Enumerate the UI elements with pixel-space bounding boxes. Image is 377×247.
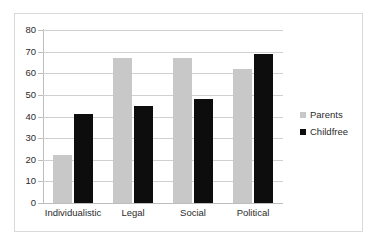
chart-legend: ParentsChildfree — [300, 106, 358, 140]
y-tick-label-60: 60 — [6, 68, 36, 78]
bar-parents-political — [233, 69, 252, 203]
legend-swatch-icon-parents — [300, 112, 306, 118]
bar-parents-individualistic — [53, 155, 72, 203]
category-label-social: Social — [163, 207, 223, 219]
plot-area — [43, 30, 283, 203]
gridline-0 — [43, 203, 283, 204]
bar-group — [223, 30, 283, 203]
legend-label: Parents — [310, 109, 343, 120]
y-tick-label-0: 0 — [6, 198, 36, 208]
bar-childfree-social — [194, 99, 213, 203]
category-label-individualistic: Individualistic — [43, 207, 103, 219]
legend-swatch-icon-childfree — [300, 129, 306, 135]
y-axis-tick-labels: 01020304050607080 — [2, 0, 36, 247]
category-axis-labels: IndividualisticLegalSocialPolitical — [43, 207, 283, 223]
category-label-political: Political — [223, 207, 283, 219]
legend-label: Childfree — [310, 126, 348, 137]
y-tick-label-20: 20 — [6, 155, 36, 165]
y-tick-label-50: 50 — [6, 90, 36, 100]
y-tick-label-10: 10 — [6, 176, 36, 186]
bar-group — [43, 30, 103, 203]
bar-childfree-political — [254, 54, 273, 203]
bar-childfree-individualistic — [74, 114, 93, 203]
bar-childfree-legal — [134, 106, 153, 203]
legend-entry-parents[interactable]: Parents — [300, 106, 358, 123]
y-tick-label-30: 30 — [6, 133, 36, 143]
y-tick-label-40: 40 — [6, 112, 36, 122]
bar-group — [163, 30, 223, 203]
bar-parents-legal — [113, 58, 132, 203]
bar-chart-figure: 01020304050607080 IndividualisticLegalSo… — [0, 0, 377, 247]
y-tick-label-70: 70 — [6, 47, 36, 57]
y-tick-label-80: 80 — [6, 25, 36, 35]
bar-group — [103, 30, 163, 203]
category-label-legal: Legal — [103, 207, 163, 219]
legend-entry-childfree[interactable]: Childfree — [300, 123, 358, 140]
bar-parents-social — [173, 58, 192, 203]
